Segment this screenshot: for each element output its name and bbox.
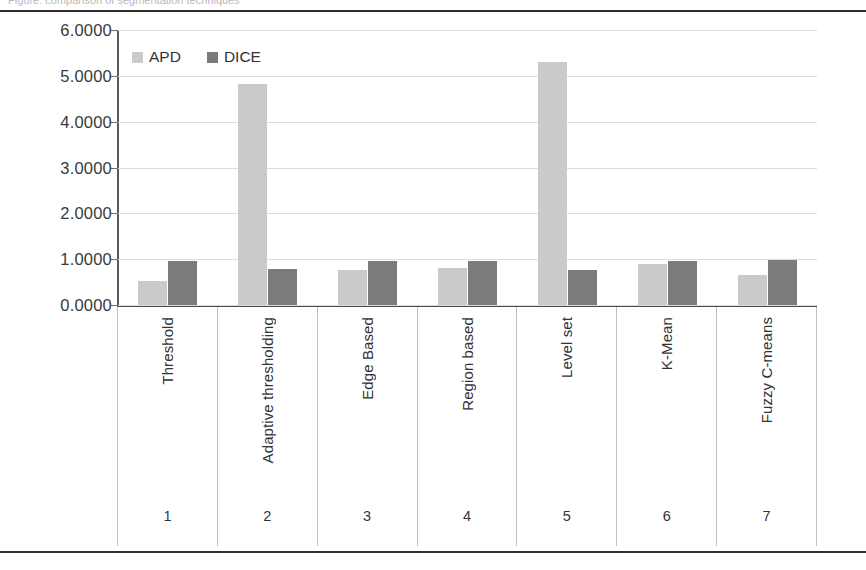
legend-label-apd: APD — [149, 48, 181, 66]
category-index: 6 — [663, 508, 671, 524]
plot-area — [117, 30, 817, 305]
y-axis-tick — [111, 305, 118, 306]
category-cell: Adaptive thresholding2 — [218, 307, 318, 546]
category-label: Region based — [459, 317, 476, 411]
bar-group — [617, 30, 717, 305]
category-index: 1 — [163, 508, 171, 524]
bar-dice — [468, 261, 497, 305]
category-index: 2 — [263, 508, 271, 524]
y-axis-tick-label: 5.0000 — [40, 68, 112, 84]
y-axis-tick-label: 6.0000 — [40, 22, 112, 38]
bar-apd — [738, 275, 767, 305]
category-label: Edge Based — [359, 317, 376, 400]
category-cell: Threshold1 — [117, 307, 218, 546]
bar-group — [217, 30, 317, 305]
bar-group — [717, 30, 817, 305]
category-cell: Region based4 — [418, 307, 518, 546]
bar-dice — [168, 261, 197, 305]
category-index: 7 — [763, 508, 771, 524]
gridline — [117, 305, 817, 306]
category-index: 5 — [563, 508, 571, 524]
legend-swatch-dice-icon — [207, 52, 218, 63]
bar-dice — [668, 261, 697, 305]
category-index: 3 — [363, 508, 371, 524]
y-axis-tick-label: 0.0000 — [40, 297, 112, 313]
page-top-cut-text: Figure: comparison of segmentation techn… — [8, 0, 848, 6]
category-cell: Fuzzy C-means7 — [717, 307, 817, 546]
bar-group — [417, 30, 517, 305]
y-axis-tick-label: 2.0000 — [40, 205, 112, 221]
bar-apd — [638, 264, 667, 305]
bar-dice — [268, 269, 297, 305]
bar-apd — [438, 268, 467, 305]
category-label: Level set — [558, 317, 575, 378]
legend-swatch-apd-icon — [132, 52, 143, 63]
category-cell: Edge Based3 — [318, 307, 418, 546]
category-index: 4 — [463, 508, 471, 524]
bar-apd — [138, 281, 167, 305]
chart-legend: APD DICE — [132, 48, 261, 66]
category-label: Threshold — [159, 317, 176, 385]
category-label: K-Mean — [658, 317, 675, 370]
legend-label-dice: DICE — [224, 48, 261, 66]
bottom-horizontal-rule — [0, 551, 866, 553]
legend-entry-apd: APD — [132, 48, 181, 66]
category-label: Fuzzy C-means — [758, 317, 775, 423]
category-label: Adaptive thresholding — [259, 317, 276, 463]
top-horizontal-rule — [0, 10, 866, 12]
bar-chart-figure: 6.00005.00004.00003.00002.00001.00000.00… — [0, 14, 866, 550]
bar-dice — [568, 270, 597, 305]
bar-dice — [368, 261, 397, 305]
legend-entry-dice: DICE — [207, 48, 261, 66]
bar-apd — [338, 270, 367, 305]
bar-apd — [538, 62, 567, 305]
category-cell: Level set5 — [517, 307, 617, 546]
y-axis-tick-labels: 6.00005.00004.00003.00002.00001.00000.00… — [34, 14, 112, 550]
bar-group — [517, 30, 617, 305]
bar-group — [117, 30, 217, 305]
category-cell: K-Mean6 — [617, 307, 717, 546]
category-label-table: Threshold1Adaptive thresholding2Edge Bas… — [117, 307, 817, 546]
y-axis-tick-label: 3.0000 — [40, 160, 112, 176]
bar-dice — [768, 260, 797, 305]
bar-apd — [238, 84, 267, 305]
y-axis-tick-label: 4.0000 — [40, 114, 112, 130]
bar-group — [317, 30, 417, 305]
y-axis-tick-label: 1.0000 — [40, 251, 112, 267]
